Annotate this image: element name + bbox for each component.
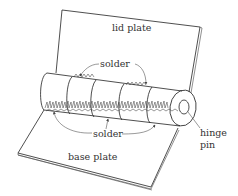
- solder-bottom-label: solder: [93, 128, 123, 139]
- solder-bottom-bead: [45, 101, 178, 111]
- hinge-diagram: lid plate solder solder hinge pin base p…: [0, 0, 238, 196]
- lid-plate-label: lid plate: [112, 22, 152, 33]
- hinge-pin-label-line1: hinge: [200, 127, 227, 138]
- hinge-cylinder: [41, 73, 199, 128]
- hinge-pin: [179, 100, 189, 114]
- base-plate: [18, 110, 179, 190]
- hinge-pin-leader: [188, 112, 200, 128]
- base-plate-label: base plate: [68, 151, 118, 162]
- solder-top-bead: [74, 74, 146, 85]
- solder-top-label: solder: [100, 58, 130, 69]
- hinge-pin-label-line2: pin: [200, 139, 215, 150]
